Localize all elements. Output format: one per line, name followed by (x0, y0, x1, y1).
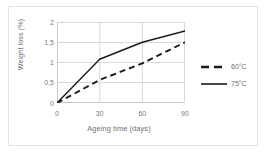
legend-item-60c: 60°C (201, 58, 257, 75)
legend-solid-line-icon (201, 79, 227, 89)
gridlines (57, 22, 185, 103)
x-axis-title: Ageing time (days) (49, 124, 189, 133)
x-tick-label: 30 (88, 110, 112, 117)
legend-label-75c: 75°C (231, 80, 247, 87)
plot-area (57, 22, 185, 103)
chart-legend: 60°C 75°C (201, 58, 257, 92)
x-tick-label: 90 (173, 110, 197, 117)
legend-dashed-line-icon (201, 62, 227, 72)
plot-svg (57, 22, 185, 103)
legend-label-60c: 60°C (231, 63, 247, 70)
legend-item-75c: 75°C (201, 75, 257, 92)
x-tick-label: 0 (45, 110, 69, 117)
chart-figure: Weight loss (%) 2 1,5 1 0,5 0 0 30 60 90… (0, 0, 266, 154)
x-tick-label: 60 (130, 110, 154, 117)
